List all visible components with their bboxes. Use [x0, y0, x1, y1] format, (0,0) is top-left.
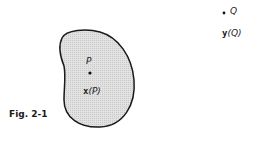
point-q-dot: [223, 12, 226, 15]
point-q-label: Q: [230, 6, 237, 16]
point-p-label: P: [86, 56, 91, 66]
point-p-arg: (P): [88, 86, 100, 96]
diagram-canvas: [0, 0, 257, 142]
point-p-dot: [88, 71, 91, 74]
point-q-coord: y(Q): [222, 21, 242, 40]
figure-caption: Fig. 2-1: [9, 109, 48, 119]
point-p-coord: x(P): [83, 79, 101, 98]
point-q-arg: (Q): [227, 28, 241, 38]
